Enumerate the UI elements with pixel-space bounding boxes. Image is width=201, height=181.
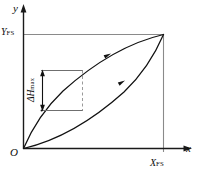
origin-label: O	[10, 147, 18, 158]
delta-h-letter: H	[26, 90, 36, 97]
delta-symbol: Δ	[26, 97, 36, 103]
delta-h-max-label: ΔHmax	[27, 30, 37, 70]
y-axis-arrow-icon	[21, 4, 27, 13]
delta-h-subscript: max	[28, 78, 35, 90]
ascending-curve-direction-arrow-icon	[118, 81, 125, 86]
delta-h-max-label-inner: ΔHmax	[27, 78, 37, 102]
hysteresis-figure: y x O YFS XFS ΔHmax	[0, 0, 201, 181]
y-full-scale-subscript: FS	[7, 29, 15, 36]
ascending-curve	[24, 35, 164, 149]
figure-caption	[0, 172, 201, 181]
x-full-scale-subscript: FS	[156, 160, 164, 167]
y-full-scale-label: YFS	[1, 27, 15, 37]
x-full-scale-label: XFS	[150, 158, 164, 168]
descending-curve	[24, 35, 164, 149]
y-axis-label: y	[13, 3, 18, 14]
delta-h-lower-contact-point	[41, 110, 43, 112]
x-axis-label: x	[186, 143, 191, 154]
